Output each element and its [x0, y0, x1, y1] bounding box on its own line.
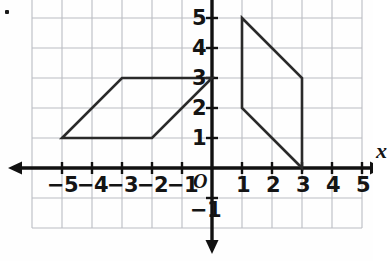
x-axis-label: x — [376, 140, 387, 162]
x-tick-label: 2 — [266, 175, 280, 196]
x-tick-label: −2 — [137, 175, 168, 196]
y-tick-label: 5 — [192, 8, 206, 29]
y-tick-label: 2 — [192, 98, 206, 119]
x-tick-label: −1 — [167, 175, 198, 196]
y-tick-label: 4 — [192, 38, 206, 59]
y-tick-label: 3 — [192, 68, 206, 89]
x-tick-label: −4 — [77, 175, 108, 196]
x-tick-label: 3 — [296, 175, 310, 196]
y-tick-label: 1 — [192, 128, 206, 149]
y-tick-label: −1 — [190, 200, 221, 221]
x-tick-label: 5 — [356, 175, 370, 196]
x-tick-label: −3 — [107, 175, 138, 196]
x-tick-label: 1 — [236, 175, 250, 196]
x-tick-label: 4 — [326, 175, 340, 196]
x-tick-label: −5 — [47, 175, 78, 196]
